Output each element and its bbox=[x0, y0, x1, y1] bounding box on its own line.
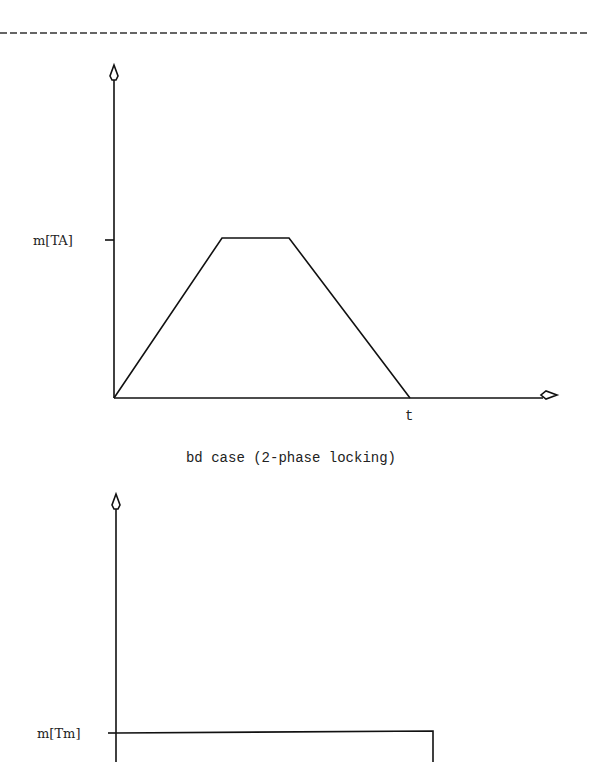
x-label-t: t bbox=[405, 408, 413, 424]
step-curve bbox=[116, 731, 433, 762]
y-label-m-ta: m[TA] bbox=[33, 233, 73, 248]
trapezoid-curve bbox=[114, 238, 410, 398]
bottom-chart: m[Tm] bbox=[37, 494, 433, 762]
y-axis-arrow-icon bbox=[110, 65, 118, 80]
top-chart: m[TA] t bd case (2-phase locking) bbox=[33, 65, 557, 466]
y-label-m-tm: m[Tm] bbox=[37, 726, 80, 741]
y-axis-arrow-icon bbox=[112, 494, 120, 509]
diagram-canvas: m[TA] t bd case (2-phase locking) m[Tm] bbox=[0, 0, 589, 762]
x-axis-arrow-icon bbox=[541, 391, 557, 399]
chart-caption: bd case (2-phase locking) bbox=[186, 450, 396, 466]
